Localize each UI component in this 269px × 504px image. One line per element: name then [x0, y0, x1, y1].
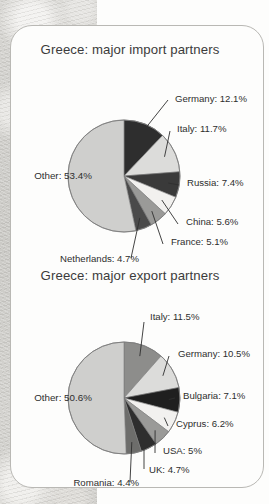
pie-chart-export-partners: Greece: major export partners Other: 50.… [11, 260, 263, 486]
figure-card: Greece: major import partners Other: 53.… [10, 25, 264, 488]
import-pie-svg: Other: 53.4%Germany: 12.1%Italy: 11.7%Ru… [11, 34, 263, 262]
pie-label-other: Other: 53.4% [34, 170, 92, 181]
pie-chart-import-partners: Greece: major import partners Other: 53.… [11, 34, 263, 262]
pie-label-china: China: 5.6% [186, 216, 239, 227]
pie-label-usa: USA: 5% [163, 445, 202, 456]
pie-label-other: Other: 50.6% [34, 392, 92, 403]
pie-label-bulgaria: Bulgaria: 7.1% [183, 390, 246, 401]
pie-label-russia: Russia: 7.4% [187, 177, 244, 188]
export-pie-svg: Other: 50.6%Italy: 11.5%Germany: 10.5%Bu… [11, 260, 263, 486]
pie-label-italy: Italy: 11.5% [150, 311, 200, 322]
pie-label-uk: UK: 4.7% [149, 464, 190, 475]
pie-label-germany: Germany: 10.5% [178, 348, 250, 359]
pie-label-italy: Italy: 11.7% [177, 123, 227, 134]
pie-label-germany: Germany: 12.1% [175, 93, 247, 104]
pie-label-romania: Romania: 4.4% [73, 477, 139, 486]
pie-label-cyprus: Cyprus: 6.2% [176, 418, 234, 429]
pie-label-france: France: 5.1% [171, 236, 229, 247]
